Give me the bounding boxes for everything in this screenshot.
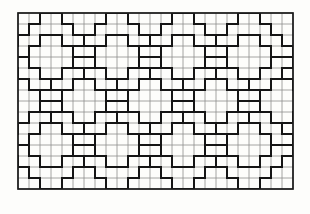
pattern-canvas (0, 0, 310, 214)
pattern-chart-figure (0, 0, 310, 214)
